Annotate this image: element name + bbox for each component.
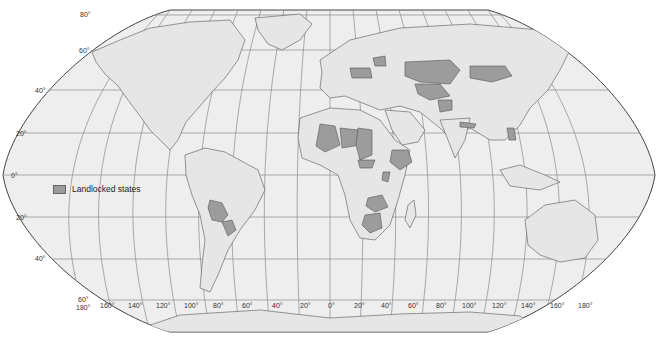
lon-label: 120° [156,302,171,309]
landlocked-swatch [53,185,66,194]
lon-label: 140° [521,302,536,309]
central-europe [350,68,372,78]
lat-label-20s: 20° [16,214,27,221]
lat-label-0: 0° [11,172,18,179]
lon-label: 180° [578,302,593,309]
lon-label: 40° [381,302,392,309]
legend-label: Landlocked states [72,184,141,194]
lon-label: 140° [128,302,143,309]
map-legend: Landlocked states [53,184,141,194]
lon-label: 60° [242,302,253,309]
lat-label-80: 80° [80,11,91,18]
lon-label: 180° [76,304,91,311]
lon-label: 160° [550,302,565,309]
new-zealand [605,265,628,290]
world-map: 80° 60° 40° 20° 0° 20° 40° 60° 180° 160°… [0,0,658,342]
lon-label: 80° [436,302,447,309]
lon-label: 80° [213,302,224,309]
central-african-republic [358,160,375,168]
lon-label: 20° [354,302,365,309]
lon-label: 20° [300,302,311,309]
lat-label-60s: 60° [78,296,89,303]
lon-label: 0° [328,302,335,309]
belarus [373,56,386,66]
lat-label-40n: 40° [35,87,46,94]
lon-label: 100° [184,302,199,309]
lat-label-20n: 20° [16,130,27,137]
lon-label: 40° [272,302,283,309]
afghanistan [438,100,452,112]
lon-label: 60° [408,302,419,309]
lat-label-60n: 60° [79,47,90,54]
lon-label: 120° [492,302,507,309]
lon-label: 100° [462,302,477,309]
lat-label-40s: 40° [35,255,46,262]
lon-label: 160° [100,302,115,309]
